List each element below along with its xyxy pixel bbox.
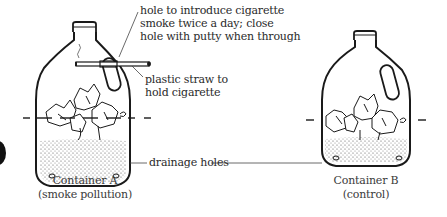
- container-a-subtitle: (smoke pollution): [33, 188, 137, 202]
- hole-annotation-line1: hole to introduce cigarette: [140, 4, 300, 17]
- straw-cigarette-icon: [76, 44, 151, 67]
- hole-annotation: hole to introduce cigarette smoke twice …: [140, 4, 300, 43]
- straw-annotation-line2: hold cigarette: [145, 86, 228, 99]
- container-b-caption: Container B (control): [320, 174, 412, 202]
- straw-annotation-line1: plastic straw to: [145, 73, 228, 86]
- container-b-title: Container B: [320, 174, 412, 188]
- container-a-caption: Container A (smoke pollution): [33, 174, 137, 202]
- hole-annotation-line3: hole with putty when through: [140, 30, 300, 43]
- hole-annotation-line2: smoke twice a day; close: [140, 17, 300, 30]
- container-a-title: Container A: [33, 174, 137, 188]
- plant-a-icon: [46, 84, 126, 140]
- smoke-icon: [78, 44, 81, 58]
- container-b-subtitle: (control): [320, 188, 412, 202]
- drainage-annotation: drainage holes: [149, 156, 229, 169]
- partial-shape-left: [0, 141, 6, 165]
- straw-annotation: plastic straw to hold cigarette: [145, 73, 228, 99]
- plant-b-icon: [326, 94, 406, 140]
